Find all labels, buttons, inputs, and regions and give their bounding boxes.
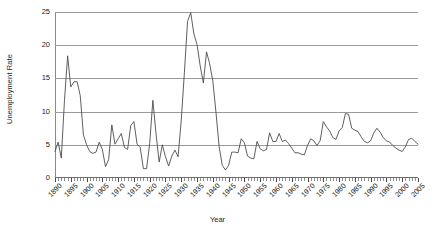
x-tick-1947: [235, 178, 236, 181]
x-tick-1951: [248, 178, 249, 181]
x-tick-1904: [99, 178, 100, 181]
x-tick-1943: [222, 178, 223, 181]
x-tick-1913: [128, 178, 129, 181]
x-tick-1952: [251, 178, 252, 181]
x-tick-label-1915: 1915: [126, 182, 142, 198]
x-tick-1977: [330, 178, 331, 181]
series-line-chart: [55, 12, 418, 178]
x-tick-label-2005: 2005: [410, 182, 426, 198]
x-tick-1982: [345, 178, 346, 181]
x-tick-1917: [140, 178, 141, 181]
x-tick-2004: [415, 178, 416, 181]
x-tick-1958: [270, 178, 271, 181]
x-tick-1927: [172, 178, 173, 181]
x-tick-1902: [93, 178, 94, 181]
x-tick-1964: [289, 178, 290, 181]
unemployment-rate-chart: Unemployment Rate 0510152025 18901895190…: [0, 0, 435, 232]
y-tick-label-10: 10: [0, 108, 50, 116]
x-tick-label-1890: 1890: [47, 182, 63, 198]
x-tick-label-1965: 1965: [283, 182, 299, 198]
x-tick-2003: [412, 178, 413, 181]
x-tick-1988: [364, 178, 365, 181]
x-tick-1894: [68, 178, 69, 181]
x-tick-1997: [393, 178, 394, 181]
x-tick-1936: [200, 178, 201, 181]
x-tick-1924: [162, 178, 163, 181]
x-tick-1899: [83, 178, 84, 181]
x-tick-1926: [169, 178, 170, 181]
x-tick-label-1905: 1905: [94, 182, 110, 198]
x-tick-label-1995: 1995: [378, 182, 394, 198]
x-tick-1921: [153, 178, 154, 181]
x-tick-1954: [257, 178, 258, 181]
x-tick-label-1970: 1970: [299, 182, 315, 198]
x-tick-1942: [219, 178, 220, 181]
x-tick-label-1985: 1985: [347, 182, 363, 198]
x-tick-1891: [58, 178, 59, 181]
x-tick-1916: [137, 178, 138, 181]
y-tick-label-0: 0: [0, 174, 50, 182]
x-tick-1963: [285, 178, 286, 181]
x-tick-1932: [188, 178, 189, 181]
x-tick-1973: [317, 178, 318, 181]
x-tick-1957: [266, 178, 267, 181]
x-tick-1903: [96, 178, 97, 181]
x-tick-2001: [405, 178, 406, 181]
x-tick-1992: [377, 178, 378, 181]
x-tick-label-1975: 1975: [315, 182, 331, 198]
x-tick-label-1960: 1960: [268, 182, 284, 198]
x-tick-1956: [263, 178, 264, 181]
x-tick-1898: [80, 178, 81, 181]
x-tick-1959: [273, 178, 274, 181]
x-tick-1969: [304, 178, 305, 181]
x-tick-1981: [342, 178, 343, 181]
x-tick-1974: [320, 178, 321, 181]
x-tick-label-1945: 1945: [220, 182, 236, 198]
x-tick-1909: [115, 178, 116, 181]
x-tick-1908: [112, 178, 113, 181]
x-tick-label-1935: 1935: [189, 182, 205, 198]
x-tick-1918: [143, 178, 144, 181]
x-tick-label-1955: 1955: [252, 182, 268, 198]
x-axis-title-text: Year: [210, 215, 225, 224]
y-tick-label-15: 15: [0, 75, 50, 83]
x-tick-1937: [203, 178, 204, 181]
y-axis-title: Unemployment Rate: [2, 0, 16, 178]
x-tick-1929: [178, 178, 179, 181]
y-tick-label-5: 5: [0, 141, 50, 149]
x-tick-label-1950: 1950: [236, 182, 252, 198]
x-tick-1923: [159, 178, 160, 181]
y-tick-label-20: 20: [0, 41, 50, 49]
x-tick-1941: [216, 178, 217, 181]
x-tick-1989: [368, 178, 369, 181]
x-tick-label-1940: 1940: [204, 182, 220, 198]
x-tick-label-1910: 1910: [110, 182, 126, 198]
x-tick-1912: [124, 178, 125, 181]
x-tick-1901: [90, 178, 91, 181]
x-tick-1999: [399, 178, 400, 181]
x-tick-label-1895: 1895: [62, 182, 78, 198]
x-tick-1972: [314, 178, 315, 181]
x-tick-1996: [390, 178, 391, 181]
x-tick-label-2000: 2000: [394, 182, 410, 198]
x-tick-1979: [336, 178, 337, 181]
x-tick-1946: [232, 178, 233, 181]
x-tick-1968: [301, 178, 302, 181]
x-tick-1928: [175, 178, 176, 181]
x-tick-1962: [282, 178, 283, 181]
x-tick-1976: [326, 178, 327, 181]
x-tick-1934: [194, 178, 195, 181]
x-tick-1897: [77, 178, 78, 181]
x-tick-1939: [210, 178, 211, 181]
x-tick-1986: [358, 178, 359, 181]
x-tick-1893: [64, 178, 65, 181]
x-tick-1911: [121, 178, 122, 181]
x-tick-1984: [352, 178, 353, 181]
x-tick-1907: [109, 178, 110, 181]
x-tick-1961: [279, 178, 280, 181]
x-tick-1953: [254, 178, 255, 181]
x-tick-1906: [106, 178, 107, 181]
x-tick-1931: [184, 178, 185, 181]
x-tick-1987: [361, 178, 362, 181]
x-tick-1922: [156, 178, 157, 181]
